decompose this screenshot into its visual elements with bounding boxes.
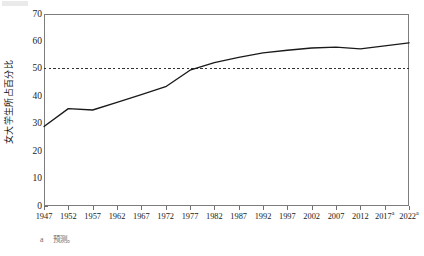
x-tick-mark — [93, 206, 94, 210]
x-tick-mark — [68, 206, 69, 210]
x-tick-mark — [141, 206, 142, 210]
x-tick-mark — [190, 206, 191, 210]
x-tick-mark — [44, 206, 45, 210]
y-axis-title: 女大学生所占百分比 — [2, 4, 16, 200]
y-tick-label: 30 — [8, 119, 42, 128]
footnote-marker: a — [40, 235, 44, 244]
x-tick-mark — [263, 206, 264, 210]
y-tick-label: 60 — [8, 37, 42, 46]
x-tick-mark — [385, 206, 386, 210]
y-tick-label: 70 — [8, 10, 42, 19]
x-tick-mark — [166, 206, 167, 210]
y-tick-label: 0 — [8, 202, 42, 211]
y-tick-label: 50 — [8, 64, 42, 73]
figure-container: 女大学生所占百分比 010203040506070 19471952195719… — [0, 0, 424, 256]
data-series-line — [44, 43, 409, 127]
x-tick-mark — [239, 206, 240, 210]
x-tick-label: 2022a — [387, 212, 424, 222]
x-tick-mark — [214, 206, 215, 210]
chart-plot-svg — [44, 14, 409, 206]
x-tick-mark — [360, 206, 361, 210]
y-tick-label: 10 — [8, 174, 42, 183]
x-tick-mark — [312, 206, 313, 210]
y-tick-label: 20 — [8, 147, 42, 156]
x-tick-mark — [117, 206, 118, 210]
x-tick-mark — [287, 206, 288, 210]
x-tick-mark — [409, 206, 410, 210]
x-tick-mark — [336, 206, 337, 210]
footnote-text: 预测。 — [53, 235, 74, 244]
y-tick-label: 40 — [8, 92, 42, 101]
footnote: a预测。 — [40, 234, 74, 246]
